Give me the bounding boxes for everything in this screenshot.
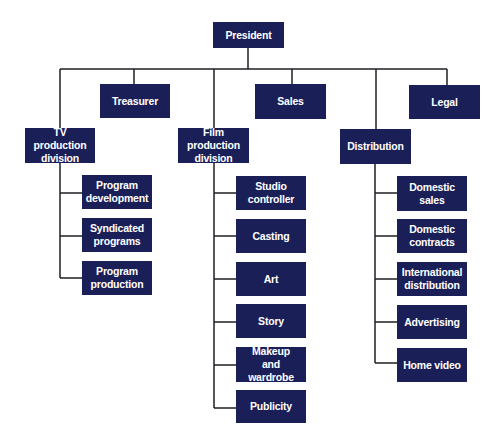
node-makeup-and-wardrobe: Makeup and wardrobe [236,347,306,382]
node-domestic-contracts: Domestic contracts [397,219,467,253]
node-sales: Sales [255,84,326,119]
node-treasurer: Treasurer [100,84,170,118]
node-distribution: Distribution [340,129,411,164]
node-syndicated-programs: Syndicated programs [82,218,152,252]
node-publicity: Publicity [236,390,306,423]
node-program-production: Program production [82,261,152,295]
node-president: President [213,22,284,48]
node-studio-controller: Studio controller [236,176,306,210]
node-international-distribution: International distribution [397,262,467,296]
node-tv-production-division: TV production division [25,128,95,163]
node-film-production-division: Film production division [178,128,249,163]
node-story: Story [236,304,306,338]
node-program-development: Program development [82,175,152,209]
node-domestic-sales: Domestic sales [397,176,467,211]
node-advertising: Advertising [397,305,467,339]
node-legal: Legal [409,85,480,119]
node-home-video: Home video [397,348,467,382]
node-casting: Casting [236,219,306,253]
node-art: Art [236,262,306,296]
